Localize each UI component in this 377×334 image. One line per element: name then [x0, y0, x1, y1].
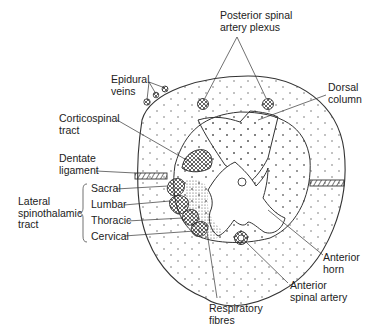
label-lateral-spinothalamic-tract: Lateral spinothalamic tract: [18, 196, 82, 231]
label-line: tract: [18, 219, 82, 231]
label-dorsal-column: Dorsal column: [328, 82, 362, 105]
label-anterior-spinal-artery: Anterior spinal artery: [290, 280, 347, 303]
label-line: veins: [111, 86, 150, 98]
label-sacral: Sacral: [91, 183, 121, 195]
dentate-ligament-right: [310, 180, 344, 186]
label-line: tract: [59, 125, 120, 137]
label-line: spinal artery: [290, 292, 347, 304]
label-corticospinal-tract: Corticospinal tract: [59, 113, 120, 136]
epidural-vein-2: [153, 92, 159, 98]
tract-segment-cervical: [191, 222, 208, 237]
label-cervical: Cervical: [91, 231, 129, 243]
label-line: Epidural: [111, 74, 150, 86]
posterior-spinal-artery-right: [263, 99, 274, 110]
label-line: Corticospinal: [59, 113, 120, 125]
label-posterior-spinal-artery-plexus: Posterior spinal artery plexus: [220, 10, 292, 33]
label-epidural-veins: Epidural veins: [111, 74, 150, 97]
label-line: artery plexus: [220, 22, 292, 34]
label-line: fibres: [209, 315, 263, 327]
tract-segment-sacral: [167, 178, 184, 196]
central-canal: [238, 178, 246, 186]
label-line: Posterior spinal: [220, 10, 292, 22]
label-respiratory-fibres: Respiratory fibres: [209, 303, 263, 326]
label-line: Lateral: [18, 196, 82, 208]
label-line: Anterior: [290, 280, 347, 292]
label-line: Respiratory: [209, 303, 263, 315]
label-line: column: [328, 94, 362, 106]
label-line: horn: [323, 264, 360, 276]
label-thoracic: Thoracic: [91, 215, 131, 227]
posterior-spinal-artery-left: [198, 99, 209, 110]
label-anterior-horn: Anterior horn: [323, 252, 360, 275]
label-line: Anterior: [323, 252, 360, 264]
label-line: ligament: [59, 165, 99, 177]
label-dentate-ligament: Dentate ligament: [59, 153, 99, 176]
label-line: Dentate: [59, 153, 99, 165]
dentate-ligament-left: [135, 173, 167, 179]
label-lumbar: Lumbar: [91, 199, 127, 211]
anterior-spinal-artery-lumen: [238, 235, 244, 241]
label-line: Dorsal: [328, 82, 362, 94]
